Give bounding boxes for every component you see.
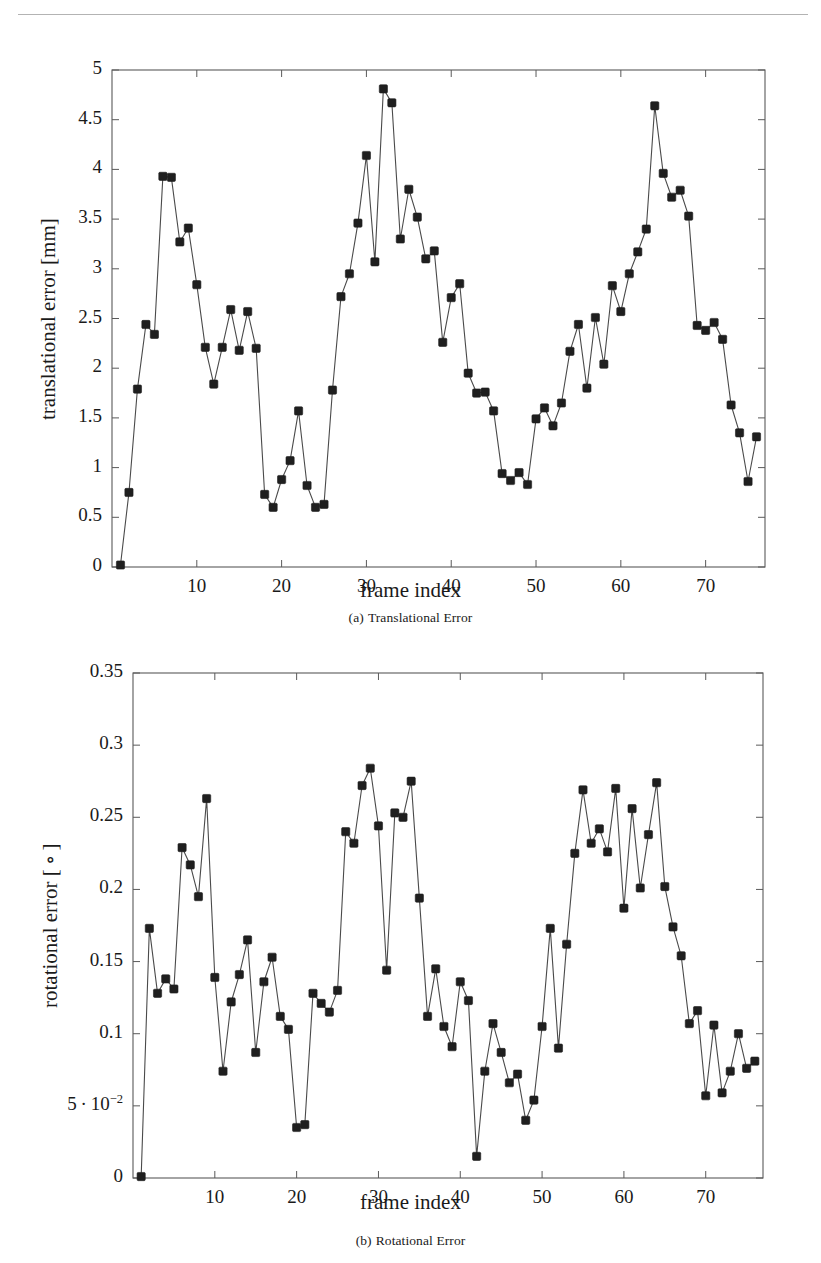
y-tick-label: 0.2 (99, 876, 123, 898)
y-axis-title-rotational: rotational error [ ∘ ] (38, 843, 63, 1007)
x-tick-label: 60 (594, 1186, 654, 1208)
chart-canvas-rotational (0, 645, 821, 1215)
y-tick-label: 4 (93, 156, 103, 178)
plot-area-translational: translational error [mm] frame index 00.… (0, 22, 821, 592)
y-tick-label: 0.25 (90, 804, 123, 826)
x-tick-label: 30 (348, 1186, 408, 1208)
x-tick-label: 70 (676, 1186, 736, 1208)
x-tick-label: 10 (167, 575, 227, 597)
x-tick-label: 70 (676, 575, 736, 597)
caption-label-b: (b) (356, 1233, 372, 1248)
y-tick-label: 1 (93, 455, 103, 477)
y-tick-label: 0.35 (90, 660, 123, 682)
y-tick-label: 0.5 (78, 504, 102, 526)
x-tick-label: 60 (591, 575, 651, 597)
page-header-rule (18, 14, 808, 15)
y-tick-label: 3 (93, 256, 103, 278)
y-tick-label: 5 · 10−2 (67, 1093, 123, 1115)
y-axis-title-translational: translational error [mm] (36, 218, 61, 420)
y-tick-label: 0 (114, 1165, 124, 1187)
caption-text-b: Rotational Error (376, 1233, 466, 1248)
figure-caption-a: (a)Translational Error (0, 610, 821, 626)
x-tick-label: 20 (267, 1186, 327, 1208)
y-tick-label: 4.5 (78, 107, 102, 129)
x-tick-label: 50 (512, 1186, 572, 1208)
y-tick-label: 3.5 (78, 206, 102, 228)
x-tick-label: 40 (430, 1186, 490, 1208)
y-tick-label: 0.1 (99, 1021, 123, 1043)
x-tick-label: 20 (252, 575, 312, 597)
y-tick-label: 0.15 (90, 949, 123, 971)
x-tick-label: 50 (506, 575, 566, 597)
figure-rotational-error: rotational error [ ∘ ] frame index 05 · … (0, 645, 821, 1260)
figure-translational-error: translational error [mm] frame index 00.… (0, 22, 821, 637)
x-tick-label: 40 (421, 575, 481, 597)
y-tick-label: 0 (93, 554, 103, 576)
plot-area-rotational: rotational error [ ∘ ] frame index 05 · … (0, 645, 821, 1215)
y-tick-label: 5 (93, 57, 103, 79)
chart-canvas-translational (0, 22, 821, 592)
x-tick-label: 30 (336, 575, 396, 597)
x-tick-label: 10 (185, 1186, 245, 1208)
y-tick-label: 0.3 (99, 732, 123, 754)
y-tick-label: 2.5 (78, 306, 102, 328)
y-tick-label: 1.5 (78, 405, 102, 427)
caption-text-a: Translational Error (368, 610, 473, 625)
figure-caption-b: (b)Rotational Error (0, 1233, 821, 1249)
y-tick-label: 2 (93, 355, 103, 377)
caption-label-a: (a) (349, 610, 364, 625)
